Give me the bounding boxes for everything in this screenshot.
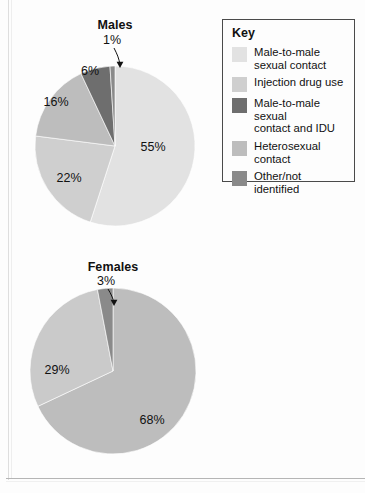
legend-items-list: Male-to-male sexual contactInjection dru… <box>232 46 348 195</box>
legend-swatch-mmsc_idu <box>232 98 247 113</box>
pie-slice-label: 29% <box>44 363 69 377</box>
legend-title: Key <box>232 27 348 40</box>
females-pie-chart: 68%29%3% <box>0 272 230 487</box>
pie-slice-label: 6% <box>81 64 99 78</box>
pie-slice-label: 16% <box>43 95 68 109</box>
legend-swatch-other <box>232 171 247 186</box>
legend-swatch-het <box>232 141 247 156</box>
legend-swatch-mmsc <box>232 47 247 62</box>
males-pie-chart: 55%22%16%6%1% <box>0 30 230 260</box>
males-pie-svg: 55%22%16%6%1% <box>0 30 230 260</box>
legend-label-mmsc: Male-to-male sexual contact <box>254 46 326 71</box>
legend-item-het: Heterosexual contact <box>232 140 348 165</box>
pie-callout-label: 3% <box>97 274 115 288</box>
legend-swatch-idu <box>232 77 247 92</box>
legend-label-mmsc_idu: Male-to-male sexual contact and IDU <box>254 97 348 135</box>
legend-label-het: Heterosexual contact <box>254 140 321 165</box>
legend-item-mmsc: Male-to-male sexual contact <box>232 46 348 71</box>
legend-item-idu: Injection drug use <box>232 76 348 92</box>
pie-slice-label: 55% <box>140 140 165 154</box>
legend-item-mmsc_idu: Male-to-male sexual contact and IDU <box>232 97 348 135</box>
legend-key-box: Key Male-to-male sexual contactInjection… <box>222 19 355 182</box>
females-pie-svg: 68%29%3% <box>0 272 230 487</box>
pie-slice-label: 68% <box>139 413 164 427</box>
legend-label-other: Other/not identified <box>254 170 348 195</box>
legend-label-idu: Injection drug use <box>254 76 343 89</box>
pie-callout-label: 1% <box>103 33 121 47</box>
legend-item-other: Other/not identified <box>232 170 348 195</box>
pie-slice-label: 22% <box>56 171 81 185</box>
